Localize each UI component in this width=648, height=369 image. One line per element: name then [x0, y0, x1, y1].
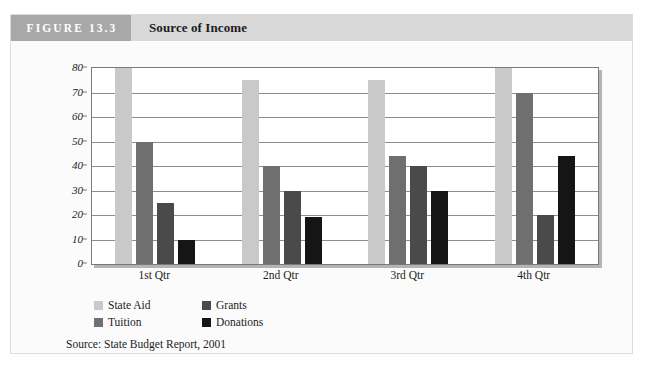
figure-frame: FIGURE 13.3 Source of Income 01020304050… [10, 14, 633, 354]
bar [115, 68, 132, 264]
figure-title: Source of Income [149, 20, 247, 36]
bar [558, 156, 575, 264]
bar [263, 166, 280, 264]
y-axis-tick-label: 10 [72, 233, 83, 245]
legend-item: Donations [202, 316, 354, 328]
legend-swatch [94, 318, 103, 327]
bar [157, 203, 174, 264]
y-axis-tick-mark [83, 91, 87, 92]
bar-group [368, 68, 448, 264]
legend-swatch [202, 301, 211, 310]
figure-number-badge: FIGURE 13.3 [11, 15, 131, 41]
bar [136, 142, 153, 265]
x-axis-tick-label: 1st Qtr [138, 269, 170, 281]
legend-label: Grants [216, 299, 247, 311]
y-axis-tick-mark [83, 263, 87, 264]
y-axis-tick-mark [83, 238, 87, 239]
bar [284, 191, 301, 265]
bar [389, 156, 406, 264]
bar [495, 68, 512, 264]
y-axis-tick-label: 50 [72, 135, 83, 147]
y-axis-tick-label: 30 [72, 184, 83, 196]
y-axis-tick-label: 70 [72, 86, 83, 98]
bar [305, 217, 322, 264]
y-axis-tick-mark [83, 189, 87, 190]
bar [242, 80, 259, 264]
x-axis-tick-label: 2nd Qtr [263, 269, 298, 281]
legend-label: Tuition [108, 316, 141, 328]
legend-label: State Aid [108, 299, 151, 311]
x-axis-tick-label: 3rd Qtr [390, 269, 424, 281]
y-axis-tick-mark [83, 116, 87, 117]
bar [178, 240, 195, 265]
chart-region: 01020304050607080 1st Qtr2nd Qtr3rd Qtr4… [11, 41, 632, 353]
legend-item: Tuition [94, 316, 202, 328]
y-axis-tick-label: 80 [72, 61, 83, 73]
legend-item: State Aid [94, 299, 202, 311]
y-axis-tick-mark [83, 140, 87, 141]
source-note: Source: State Budget Report, 2001 [66, 338, 226, 350]
y-axis-tick-label: 60 [72, 110, 83, 122]
legend-swatch [202, 318, 211, 327]
bar [537, 215, 554, 264]
bar-group [115, 68, 195, 264]
y-axis-tick-label: 20 [72, 208, 83, 220]
y-axis-tick-mark [83, 165, 87, 166]
bar-group [242, 68, 322, 264]
figure-header: FIGURE 13.3 Source of Income [11, 15, 632, 41]
x-axis-tick-label: 4th Qtr [517, 269, 550, 281]
y-axis: 01020304050607080 [51, 67, 87, 265]
y-axis-tick-mark [83, 214, 87, 215]
y-axis-tick-mark [83, 67, 87, 68]
legend-swatch [94, 301, 103, 310]
legend-item: Grants [202, 299, 354, 311]
bar [410, 166, 427, 264]
x-axis: 1st Qtr2nd Qtr3rd Qtr4th Qtr [91, 269, 599, 289]
y-axis-tick-label: 40 [72, 159, 83, 171]
chart-legend: State AidGrantsTuitionDonations [94, 299, 354, 328]
bar [516, 93, 533, 265]
legend-label: Donations [216, 316, 263, 328]
bar-group [495, 68, 575, 264]
bar [368, 80, 385, 264]
bar [431, 191, 448, 265]
plot-area [91, 67, 599, 265]
